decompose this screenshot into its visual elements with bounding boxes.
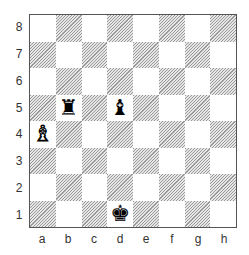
square-g8: [185, 15, 211, 42]
square-a7: [30, 42, 56, 69]
square-c2: [82, 174, 108, 201]
black-bishop-icon: ♝: [110, 97, 130, 119]
square-b1: [56, 201, 82, 228]
square-h1: [210, 201, 236, 228]
square-f6: [159, 68, 185, 95]
square-e7: [133, 42, 159, 69]
square-d3: [107, 148, 133, 175]
square-g3: [185, 148, 211, 175]
rank-label: 2: [12, 175, 26, 202]
square-d7: [107, 42, 133, 69]
square-f2: [159, 174, 185, 201]
square-g4: [185, 121, 211, 148]
square-h7: [210, 42, 236, 69]
file-label: e: [133, 230, 159, 248]
square-a5: [30, 95, 56, 122]
square-f3: [159, 148, 185, 175]
square-f8: [159, 15, 185, 42]
square-f7: [159, 42, 185, 69]
square-b3: [56, 148, 82, 175]
square-d4: [107, 121, 133, 148]
chess-board: ♜♝♗♚: [29, 14, 237, 228]
square-c1: [82, 201, 108, 228]
square-e2: [133, 174, 159, 201]
square-a8: [30, 15, 56, 42]
file-label: c: [81, 230, 107, 248]
square-f4: [159, 121, 185, 148]
square-h3: [210, 148, 236, 175]
file-label: a: [29, 230, 55, 248]
square-c3: [82, 148, 108, 175]
square-h5: [210, 95, 236, 122]
square-d8: [107, 15, 133, 42]
rank-label: 4: [12, 121, 26, 148]
square-c5: [82, 95, 108, 122]
white-bishop-icon: ♗: [33, 123, 53, 145]
square-e8: [133, 15, 159, 42]
square-d5: ♝: [107, 95, 133, 122]
square-b5: ♜: [56, 95, 82, 122]
square-d6: [107, 68, 133, 95]
square-f5: [159, 95, 185, 122]
square-b2: [56, 174, 82, 201]
rank-label: 8: [12, 14, 26, 41]
rank-label: 7: [12, 41, 26, 68]
square-b8: [56, 15, 82, 42]
rank-label: 3: [12, 148, 26, 175]
square-a6: [30, 68, 56, 95]
square-c8: [82, 15, 108, 42]
square-c7: [82, 42, 108, 69]
square-a2: [30, 174, 56, 201]
square-b7: [56, 42, 82, 69]
square-h6: [210, 68, 236, 95]
rank-label: 1: [12, 201, 26, 228]
square-e4: [133, 121, 159, 148]
square-a1: [30, 201, 56, 228]
square-c4: [82, 121, 108, 148]
square-g2: [185, 174, 211, 201]
square-g5: [185, 95, 211, 122]
rank-labels: 8 7 6 5 4 3 2 1: [12, 14, 26, 228]
square-b4: [56, 121, 82, 148]
square-g1: [185, 201, 211, 228]
square-h2: [210, 174, 236, 201]
square-g7: [185, 42, 211, 69]
square-e6: [133, 68, 159, 95]
black-rook-icon: ♜: [59, 97, 79, 119]
square-a4: ♗: [30, 121, 56, 148]
square-h8: [210, 15, 236, 42]
square-a3: [30, 148, 56, 175]
file-label: h: [211, 230, 237, 248]
square-e5: [133, 95, 159, 122]
file-labels: a b c d e f g h: [29, 230, 237, 248]
square-d2: [107, 174, 133, 201]
file-label: d: [107, 230, 133, 248]
square-h4: [210, 121, 236, 148]
rank-label: 6: [12, 68, 26, 95]
square-e3: [133, 148, 159, 175]
file-label: g: [185, 230, 211, 248]
square-e1: [133, 201, 159, 228]
rank-label: 5: [12, 94, 26, 121]
square-b6: [56, 68, 82, 95]
file-label: f: [159, 230, 185, 248]
square-d1: ♚: [107, 201, 133, 228]
black-king-icon: ♚: [110, 203, 130, 225]
square-c6: [82, 68, 108, 95]
file-label: b: [55, 230, 81, 248]
square-f1: [159, 201, 185, 228]
square-g6: [185, 68, 211, 95]
